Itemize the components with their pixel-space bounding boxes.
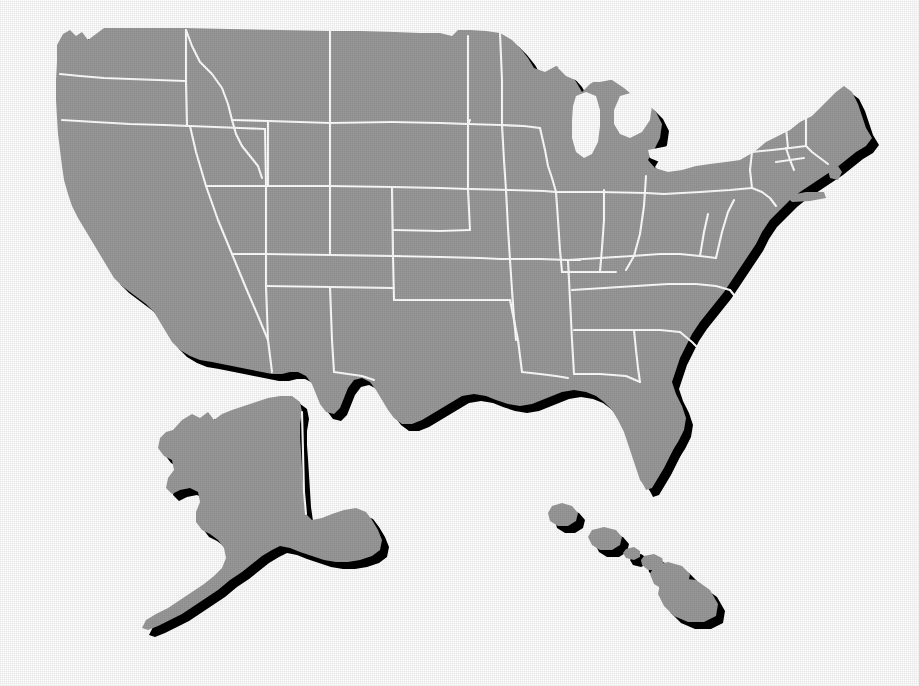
- map-canvas: United States Map with Drop Shadow Conti…: [0, 0, 919, 686]
- lake-superior: [558, 54, 640, 82]
- map-land-fill: [56, 28, 872, 630]
- united-states-map[interactable]: [0, 0, 919, 686]
- lake-erie-ontario: [648, 146, 712, 166]
